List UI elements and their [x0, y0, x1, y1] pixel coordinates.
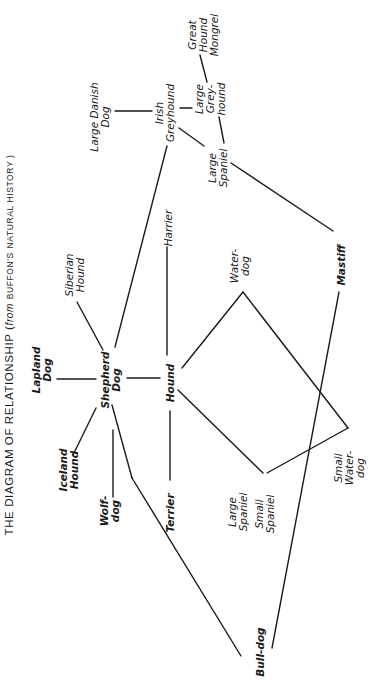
node-siberian: Siberian Hound	[64, 253, 86, 296]
node-irish: Irish Greyhound	[154, 84, 176, 142]
edge-shepherd-bulldog-seg2	[132, 478, 241, 656]
edge-shepherd-siberian	[77, 302, 103, 350]
node-largespaniel_top: Large Spaniel	[207, 149, 229, 188]
title-source: BUFFON'S	[5, 252, 15, 299]
node-harrier: Harrier	[163, 210, 174, 247]
node-shepherd: Shepherd Dog	[100, 352, 122, 409]
edge-shepherd-irish	[115, 146, 167, 347]
node-iceland: Iceland Hound	[58, 449, 80, 492]
edge-irish-largespaniel_top	[179, 128, 204, 146]
node-hound: Hound	[165, 364, 176, 402]
node-terrier: Terrier	[165, 493, 176, 532]
node-wolfdog: Wolf- dog	[99, 496, 121, 527]
node-smallwaterdog: Small Water- dog	[333, 451, 366, 485]
edge-waterdog-smallwaterdog	[243, 292, 348, 428]
edge-largegrey-largespaniel_top	[219, 117, 224, 143]
diagram-canvas: Shepherd DogHoundLapland DogSiberian Hou…	[0, 0, 376, 683]
node-mongrel: Great Hound Mongrel	[187, 14, 220, 57]
title-tail: NATURAL HISTORY )	[5, 155, 15, 249]
node-bulldog: Bull-dog	[255, 627, 266, 676]
edge-largegrey-mongrel	[200, 55, 207, 82]
node-largegrey: Large Grey- hound	[194, 82, 227, 115]
node-lapland: Lapland Dog	[31, 347, 53, 394]
title-main: THE DIAGRAM OF RELATIONSHIP (	[3, 325, 15, 535]
edge-mastiff-bulldog	[272, 292, 339, 648]
relationship-lines	[0, 0, 376, 683]
edge-hound-waterdog	[182, 292, 243, 368]
edge-hound-largespaniel_bot	[178, 390, 263, 473]
node-mastiff: Mastiff	[336, 244, 347, 285]
node-waterdog: Water- dog	[229, 249, 251, 283]
node-smallspaniel: Small Spaniel	[254, 495, 276, 534]
edge-shepherd-bulldog	[112, 405, 132, 478]
edge-largespaniel_top-mastiff	[231, 163, 333, 231]
node-largespaniel_bot: Large Spaniel	[227, 493, 249, 532]
node-danish: Large Danish Dog	[89, 82, 111, 151]
diagram-title: THE DIAGRAM OF RELATIONSHIP (from BUFFON…	[3, 155, 15, 536]
title-from: from	[4, 303, 15, 325]
